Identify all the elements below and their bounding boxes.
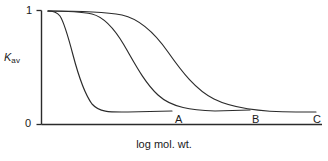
curve-label-b: B: [252, 114, 259, 125]
x-axis-label: log mol. wt.: [0, 139, 328, 150]
y-axis-tick-label-1: 1: [26, 5, 32, 16]
curve-b-path: [48, 11, 250, 111]
chart-figure: 1 0 Kav log mol. wt. A B C: [0, 0, 328, 161]
curve-label-a: A: [175, 114, 182, 125]
y-axis-label: Kav: [4, 52, 20, 63]
curve-label-c: C: [313, 114, 321, 125]
y-axis-label-subscript: av: [11, 56, 20, 65]
plot-area: [0, 0, 328, 161]
y-axis-tick-label-0: 0: [25, 118, 31, 129]
